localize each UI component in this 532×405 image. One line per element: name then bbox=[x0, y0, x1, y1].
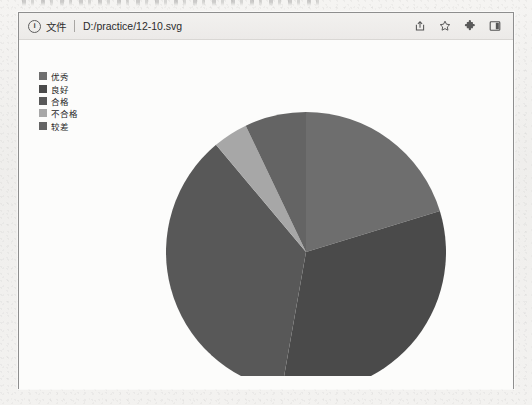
bookmark-star-icon[interactable] bbox=[439, 20, 451, 32]
scan-artifact bbox=[204, 353, 211, 357]
info-circle-icon[interactable]: i bbox=[28, 20, 41, 33]
toolbar-icon-group bbox=[414, 20, 513, 32]
pie-chart-svg bbox=[147, 86, 457, 376]
side-panel-icon[interactable] bbox=[489, 20, 501, 32]
cropped-text-fragment bbox=[22, 0, 322, 6]
address-scheme-label: 文件 bbox=[46, 19, 66, 34]
browser-toolbar: i 文件 D:/practice/12-10.svg bbox=[19, 13, 513, 40]
address-divider bbox=[74, 20, 75, 32]
extensions-puzzle-icon[interactable] bbox=[464, 20, 476, 32]
pie-chart bbox=[19, 40, 513, 389]
share-install-icon[interactable] bbox=[414, 20, 426, 32]
browser-window: i 文件 D:/practice/12-10.svg bbox=[18, 12, 514, 389]
address-bar[interactable]: i 文件 D:/practice/12-10.svg bbox=[19, 19, 414, 34]
address-url-text[interactable]: D:/practice/12-10.svg bbox=[83, 20, 182, 32]
svg-page-viewport: 优秀 良好 合格 不合格 较差 bbox=[19, 40, 513, 389]
